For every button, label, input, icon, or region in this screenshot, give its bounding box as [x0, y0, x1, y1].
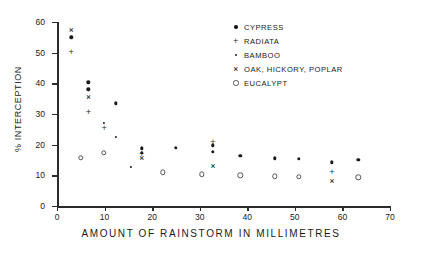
data-point-dot: [70, 36, 73, 39]
y-tick-label: 30: [36, 109, 45, 119]
x-tick: [390, 206, 391, 211]
data-point-cross: ×: [233, 66, 239, 73]
legend-marker-icon: [228, 22, 244, 32]
data-point-plus: +: [329, 168, 335, 175]
scatter-chart-figure: % INTERCEPTION 0102030405060 01020304050…: [0, 0, 422, 256]
x-tick-label: 50: [290, 212, 299, 222]
data-point-circle: [237, 173, 242, 178]
x-tick: [200, 206, 201, 211]
data-point-dot: [211, 150, 214, 153]
y-tick: 10: [52, 175, 57, 176]
chart-legend: CYPRESS+RADIATABAMBOO×OAK, HICKORY, POPL…: [228, 20, 343, 90]
data-point-circle: [233, 80, 238, 85]
x-tick-label: 0: [55, 212, 60, 222]
y-axis-title: % INTERCEPTION: [13, 39, 23, 179]
legend-marker-icon: +: [228, 36, 244, 46]
data-point-plus: +: [101, 125, 107, 132]
data-point-dot: [330, 161, 333, 164]
y-tick: 60: [52, 22, 57, 23]
x-tick-label: 70: [385, 212, 394, 222]
legend-item-label: CYPRESS: [244, 23, 284, 32]
y-tick-label: 10: [36, 170, 45, 180]
x-tick-label: 30: [195, 212, 204, 222]
data-point-circle: [160, 170, 165, 175]
data-point-dot: [273, 156, 276, 159]
y-axis-line: [57, 22, 59, 206]
legend-marker-icon: [228, 78, 244, 88]
legend-item-1[interactable]: +RADIATA: [228, 34, 343, 48]
data-point-circle: [272, 174, 277, 179]
data-point-circle: [101, 150, 106, 155]
legend-item-3[interactable]: ×OAK, HICKORY, POPLAR: [228, 62, 343, 76]
y-tick: 20: [52, 145, 57, 146]
data-point-cross: ×: [139, 155, 144, 162]
data-point-circle: [296, 174, 301, 179]
data-point-dot: [87, 81, 90, 84]
x-tick: [152, 206, 153, 211]
legend-marker-icon: ×: [228, 64, 244, 74]
legend-item-label: OAK, HICKORY, POPLAR: [244, 65, 343, 74]
legend-item-2[interactable]: BAMBOO: [228, 48, 343, 62]
x-axis-title: AMOUNT OF RAINSTORM IN MILLIMETRES: [0, 228, 422, 239]
data-point-dot: [356, 158, 359, 161]
legend-item-4[interactable]: EUCALYPT: [228, 76, 343, 90]
y-tick: 50: [52, 53, 57, 54]
data-point-dot: [297, 157, 300, 160]
x-tick-label: 10: [100, 212, 109, 222]
data-point-dot: [234, 25, 237, 28]
y-tick-label: 50: [36, 48, 45, 58]
x-axis-line: [57, 206, 390, 208]
x-tick: [105, 206, 106, 211]
data-point-cross: ×: [329, 178, 334, 185]
data-point-cross: ×: [86, 94, 91, 101]
x-tick: [342, 206, 343, 211]
x-tick-label: 40: [243, 212, 252, 222]
data-point-dot: [238, 154, 241, 157]
legend-item-label: RADIATA: [244, 37, 279, 46]
y-tick-label: 60: [36, 17, 45, 27]
data-point-small-dot: [130, 166, 132, 168]
data-point-plus: +: [233, 38, 239, 45]
data-point-dot: [174, 146, 177, 149]
data-point-cross: ×: [210, 163, 215, 170]
x-tick: [247, 206, 248, 211]
legend-item-0[interactable]: CYPRESS: [228, 20, 343, 34]
legend-item-label: EUCALYPT: [244, 79, 288, 88]
y-tick: 30: [52, 114, 57, 115]
data-point-cross: ×: [69, 27, 74, 34]
data-point-plus: +: [85, 108, 91, 115]
data-point-plus: +: [68, 49, 74, 56]
y-tick-label: 40: [36, 78, 45, 88]
y-tick-label: 20: [36, 140, 45, 150]
x-tick: [295, 206, 296, 211]
y-tick-label: 0: [40, 201, 45, 211]
y-tick: 40: [52, 83, 57, 84]
data-point-dot: [114, 102, 117, 105]
data-point-circle: [355, 174, 360, 179]
data-point-small-dot: [235, 54, 237, 56]
data-point-small-dot: [114, 136, 116, 138]
legend-item-label: BAMBOO: [244, 51, 280, 60]
x-tick-label: 20: [147, 212, 156, 222]
data-point-circle: [199, 172, 204, 177]
x-tick: [57, 206, 58, 211]
data-point-plus: +: [210, 138, 216, 145]
data-point-dot: [87, 88, 90, 91]
legend-marker-icon: [228, 50, 244, 60]
x-tick-label: 60: [338, 212, 347, 222]
data-point-circle: [78, 155, 83, 160]
